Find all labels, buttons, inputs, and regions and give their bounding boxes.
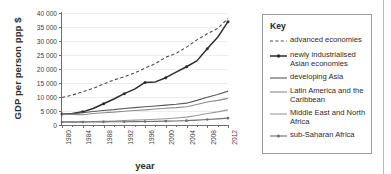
x-axis-label: year [62, 160, 228, 171]
chart-figure: GDP per person ppp $ year 05 00010 00015… [0, 0, 391, 174]
x-tick-label: 1992 [127, 130, 134, 145]
series-lines [62, 13, 228, 125]
y-tick-label: 15 000 [37, 80, 57, 87]
series-line-1 [62, 22, 228, 114]
series-marker [227, 117, 230, 120]
legend-item-0: advanced economies [269, 35, 366, 46]
x-tick-mark [207, 125, 208, 128]
legend-item-5: sub-Saharan Africa [269, 130, 366, 141]
y-tick-label: 30 000 [37, 38, 57, 45]
series-marker [61, 121, 64, 124]
x-tick-mark [135, 125, 136, 127]
x-tick-label: 2000 [168, 130, 175, 145]
series-marker [102, 121, 105, 124]
legend-swatch-icon [269, 131, 288, 141]
legend-swatch-icon [269, 109, 288, 119]
series-marker [144, 81, 147, 84]
legend-item-4: Middle East and North Africa [269, 108, 366, 127]
legend-swatch-icon [269, 87, 288, 97]
y-axis-label: GDP per person ppp $ [12, 9, 23, 129]
series-marker [164, 76, 167, 79]
legend-label: Middle East and North Africa [288, 108, 366, 127]
y-tick-label: 25 000 [37, 52, 57, 59]
legend-swatch-icon [269, 51, 288, 61]
series-marker [206, 118, 209, 121]
x-tick-label: 1980 [65, 130, 72, 145]
x-tick-mark [104, 125, 105, 128]
legend-swatch-icon [269, 73, 288, 83]
legend-swatch-icon [269, 36, 288, 46]
x-tick-mark [62, 125, 63, 128]
x-tick-label: 2008 [210, 130, 217, 145]
x-tick-label: 1996 [148, 130, 155, 145]
series-marker [227, 20, 230, 23]
x-tick-label: 2004 [189, 130, 196, 145]
series-marker [185, 65, 188, 68]
x-tick-label: 1984 [85, 130, 92, 145]
y-tick-label: 40 000 [37, 10, 57, 17]
legend-box: Key advanced economiesnewly industrialis… [262, 14, 372, 154]
legend-item-3: Latin America and the Caribbean [269, 86, 366, 105]
y-tick-label: 35 000 [37, 24, 57, 31]
legend-label: developing Asia [288, 72, 343, 81]
y-tick-label: 5 000 [40, 108, 57, 115]
plot-region: 05 00010 00015 00020 00025 00030 00035 0… [62, 13, 228, 125]
series-marker [123, 92, 126, 95]
x-tick-mark [124, 125, 125, 128]
x-tick-mark [155, 125, 156, 127]
x-tick-mark [218, 125, 219, 127]
series-line-0 [62, 19, 228, 98]
y-tick-label: 10 000 [37, 94, 57, 101]
legend-label: sub-Saharan Africa [288, 130, 355, 139]
x-tick-mark [93, 125, 94, 127]
legend-item-1: newly industrialised Asian economies [269, 50, 366, 69]
x-tick-mark [197, 125, 198, 127]
series-marker [81, 121, 84, 124]
page-edge-rule [383, 0, 384, 174]
x-tick-mark [72, 125, 73, 127]
series-marker [123, 120, 126, 123]
legend-title: Key [270, 21, 366, 31]
x-tick-mark [114, 125, 115, 127]
series-marker [144, 120, 147, 123]
chart-area: GDP per person ppp $ year 05 00010 00015… [0, 0, 248, 174]
x-tick-label: 1988 [106, 130, 113, 145]
x-tick-mark [166, 125, 167, 128]
y-tick-label: 0 [53, 122, 57, 129]
legend-label: advanced economies [288, 35, 362, 44]
series-marker [102, 102, 105, 105]
legend-item-2: developing Asia [269, 72, 366, 83]
series-marker [206, 47, 209, 50]
x-tick-mark [228, 125, 229, 128]
x-tick-mark [83, 125, 84, 128]
series-marker [185, 119, 188, 122]
legend-label: newly industrialised Asian economies [288, 50, 366, 69]
legend-items: advanced economiesnewly industrialised A… [269, 35, 366, 141]
x-tick-mark [187, 125, 188, 128]
series-marker [164, 120, 167, 123]
x-tick-label: 2012 [231, 130, 238, 145]
y-tick-label: 20 000 [37, 66, 57, 73]
x-tick-mark [176, 125, 177, 127]
legend-label: Latin America and the Caribbean [288, 86, 366, 105]
x-tick-mark [145, 125, 146, 128]
